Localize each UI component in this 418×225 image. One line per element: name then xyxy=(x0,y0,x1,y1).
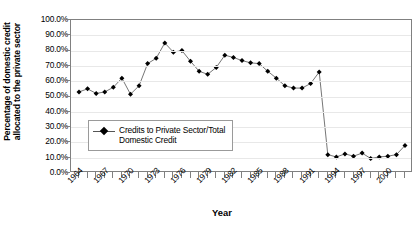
legend-marker-icon xyxy=(93,126,115,136)
y-axis-tick-mark xyxy=(66,141,70,142)
y-axis-tick-mark xyxy=(66,65,70,66)
data-point-marker xyxy=(85,86,90,91)
data-point-marker xyxy=(240,58,245,63)
y-axis-tick-label: 30.0% xyxy=(24,122,68,130)
y-axis-tick-label: 0.0% xyxy=(24,168,68,176)
data-point-marker xyxy=(154,56,159,61)
y-axis-tick-label: 100.0% xyxy=(24,15,68,23)
x-axis-tick-labels: 1964196719701973197619791982198519881991… xyxy=(0,176,418,208)
y-axis-title: Percentage of domestic credit allocated … xyxy=(3,0,22,177)
data-point-marker xyxy=(360,151,365,156)
y-axis-tick-mark xyxy=(66,34,70,35)
legend-label-line1: Credits to Private Sector/Total xyxy=(119,125,225,135)
gridline xyxy=(71,66,411,67)
legend-label-line2: Domestic Credit xyxy=(119,135,225,145)
data-point-marker xyxy=(342,151,347,156)
data-point-marker xyxy=(248,60,253,65)
y-axis-tick-label: 70.0% xyxy=(24,61,68,69)
data-point-marker xyxy=(325,152,330,157)
y-axis-tick-mark xyxy=(66,126,70,127)
y-axis-tick-mark xyxy=(66,172,70,173)
gridline xyxy=(71,97,411,98)
y-axis-tick-mark xyxy=(66,19,70,20)
y-axis-tick-mark xyxy=(66,111,70,112)
x-axis-title: Year xyxy=(0,207,418,218)
y-axis-tick-label: 20.0% xyxy=(24,137,68,145)
gridline xyxy=(71,158,411,159)
data-point-marker xyxy=(77,89,82,94)
data-point-marker xyxy=(231,55,236,60)
gridline xyxy=(71,81,411,82)
gridline xyxy=(71,35,411,36)
y-axis-tick-label: 40.0% xyxy=(24,107,68,115)
line-chart: Percentage of domestic credit allocated … xyxy=(0,0,418,225)
data-point-marker xyxy=(300,86,305,91)
y-axis-tick-mark xyxy=(66,96,70,97)
y-axis-tick-label: 80.0% xyxy=(24,45,68,53)
y-axis-tick-label: 50.0% xyxy=(24,91,68,99)
data-point-marker xyxy=(102,89,107,94)
y-axis-tick-mark xyxy=(66,157,70,158)
data-point-marker xyxy=(94,91,99,96)
gridline xyxy=(71,112,411,113)
legend-label: Credits to Private Sector/Total Domestic… xyxy=(119,125,225,146)
y-axis-tick-label: 60.0% xyxy=(24,76,68,84)
y-axis-tick-label: 10.0% xyxy=(24,153,68,161)
y-axis-tick-label: 90.0% xyxy=(24,30,68,38)
y-axis-tick-mark xyxy=(66,50,70,51)
chart-legend: Credits to Private Sector/Total Domestic… xyxy=(88,120,233,151)
gridline xyxy=(71,51,411,52)
data-point-marker xyxy=(291,86,296,91)
y-axis-tick-mark xyxy=(66,80,70,81)
